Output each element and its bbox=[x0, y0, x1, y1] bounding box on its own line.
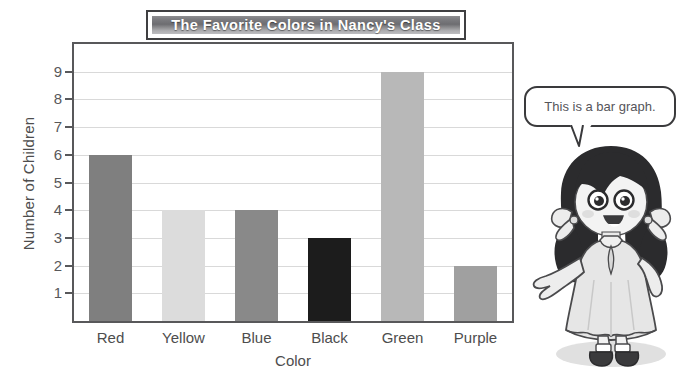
y-tick-mark bbox=[65, 126, 74, 128]
gridline bbox=[74, 266, 512, 267]
plot-inner bbox=[74, 44, 512, 321]
gridline bbox=[74, 155, 512, 156]
speech-bubble-tail-icon bbox=[568, 124, 594, 150]
y-tick-label: 9 bbox=[46, 63, 62, 80]
y-tick-label: 7 bbox=[46, 118, 62, 135]
x-tick-label-green: Green bbox=[366, 329, 439, 346]
gridline bbox=[74, 183, 512, 184]
gridline bbox=[74, 72, 512, 73]
y-tick-label: 8 bbox=[46, 90, 62, 107]
page-title: The Favorite Colors in Nancy's Class bbox=[152, 16, 460, 34]
y-axis-title: Number of Children bbox=[20, 64, 37, 304]
y-tick-label: 1 bbox=[46, 284, 62, 301]
x-tick-label-purple: Purple bbox=[439, 329, 512, 346]
y-tick-mark bbox=[65, 292, 74, 294]
bar-blue bbox=[235, 210, 278, 321]
bar-green bbox=[381, 72, 424, 321]
banner-gradient: The Favorite Colors in Nancy's Class bbox=[150, 14, 462, 36]
bar-graph-worksheet: Number of Children The Favorite Colors i… bbox=[0, 0, 700, 382]
gridline bbox=[74, 127, 512, 128]
y-tick-mark bbox=[65, 98, 74, 100]
x-tick-label-black: Black bbox=[293, 329, 366, 346]
y-tick-mark bbox=[65, 154, 74, 156]
bar-yellow bbox=[162, 210, 205, 321]
x-tick-label-blue: Blue bbox=[220, 329, 293, 346]
bar-red bbox=[89, 155, 132, 321]
y-tick-mark bbox=[65, 265, 74, 267]
speech-bubble: This is a bar graph. bbox=[524, 86, 676, 127]
y-tick-label: 3 bbox=[46, 229, 62, 246]
bar-black bbox=[308, 238, 351, 321]
x-tick-label-red: Red bbox=[74, 329, 147, 346]
y-tick-mark bbox=[65, 209, 74, 211]
gridline bbox=[74, 210, 512, 211]
gridline bbox=[74, 293, 512, 294]
y-tick-mark bbox=[65, 71, 74, 73]
y-tick-label: 5 bbox=[46, 174, 62, 191]
x-tick-label-yellow: Yellow bbox=[147, 329, 220, 346]
y-tick-label: 4 bbox=[46, 201, 62, 218]
nancy-illustration-icon bbox=[528, 140, 694, 372]
y-tick-mark bbox=[65, 237, 74, 239]
gridline bbox=[74, 238, 512, 239]
speech-bubble-text: This is a bar graph. bbox=[526, 88, 674, 125]
y-tick-label: 2 bbox=[46, 257, 62, 274]
gridline bbox=[74, 99, 512, 100]
plot-area bbox=[72, 42, 514, 323]
chart-title-banner: The Favorite Colors in Nancy's Class bbox=[146, 10, 466, 40]
bar-purple bbox=[454, 266, 497, 321]
x-axis-title: Color bbox=[72, 352, 514, 369]
y-tick-label: 6 bbox=[46, 146, 62, 163]
y-tick-mark bbox=[65, 182, 74, 184]
